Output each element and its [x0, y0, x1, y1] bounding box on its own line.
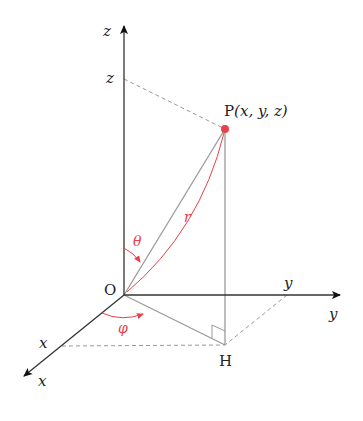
x-axis-label: x: [38, 372, 47, 390]
point-p-marker: [221, 125, 229, 133]
y-projection-line: [225, 295, 287, 345]
z-projection-line: [124, 79, 225, 129]
z-tick-label: z: [105, 69, 114, 87]
point-coordinates: (x, y, z): [234, 102, 288, 120]
x-tick-label: x: [39, 334, 48, 352]
op-segment: [124, 129, 225, 295]
point-name: P: [224, 102, 234, 120]
right-angle-marker: [212, 325, 225, 339]
foot-label: H: [219, 352, 232, 370]
y-tick-label: y: [283, 274, 293, 292]
z-axis-label: z: [102, 22, 111, 40]
spherical-coordinates-diagram: z z y y x x O H P(x, y, z) θ φ r: [0, 0, 363, 421]
r-arc: [127, 133, 224, 292]
y-axis-label: y: [328, 305, 338, 323]
phi-label: φ: [118, 320, 128, 336]
theta-arc: [124, 248, 140, 262]
phi-arc: [102, 313, 143, 318]
point-label: P(x, y, z): [224, 102, 288, 120]
origin-label: O: [104, 281, 116, 299]
theta-label: θ: [133, 233, 142, 249]
oh-segment: [124, 295, 225, 345]
x-projection-line: [62, 345, 225, 346]
